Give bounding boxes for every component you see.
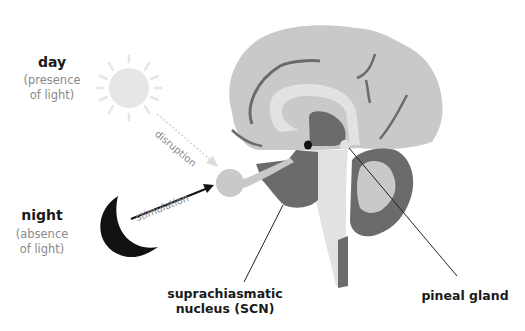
day-subtitle: (presence of light) (14, 73, 90, 103)
sun-icon (97, 56, 161, 120)
diagram-canvas (0, 0, 525, 331)
night-subtitle: (absence of light) (6, 227, 78, 257)
night-subtitle-line1: (absence (6, 227, 78, 242)
brain-illustration (216, 25, 443, 288)
day-subtitle-line1: (presence (14, 73, 90, 88)
scn-label: suprachiasmatic nucleus (SCN) (150, 286, 300, 316)
pineal-gland-label: pineal gland (410, 288, 520, 303)
scn-label-line1: suprachiasmatic (150, 286, 300, 301)
moon-icon (100, 196, 158, 257)
scn-pointer-line (244, 205, 283, 282)
day-label: day (22, 54, 82, 70)
scn-label-line2: nucleus (SCN) (150, 301, 300, 316)
day-subtitle-line2: of light) (14, 88, 90, 103)
night-subtitle-line2: of light) (6, 242, 78, 257)
night-label: night (12, 207, 72, 223)
